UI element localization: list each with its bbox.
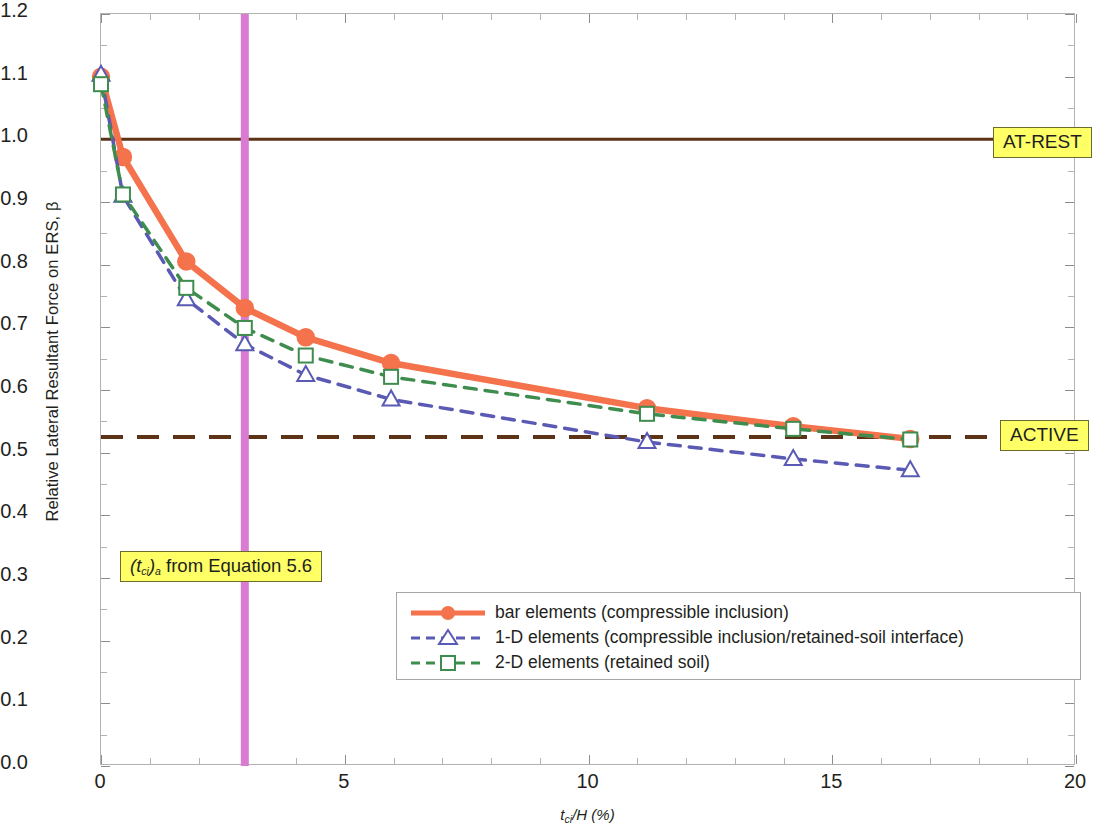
series-2 (94, 77, 917, 446)
legend-label: 2-D elements (retained soil) (495, 652, 710, 673)
data-marker-circle (297, 329, 314, 346)
data-marker-square (94, 77, 108, 91)
y-tick-label: 0.1 (0, 688, 28, 711)
tci-subscript: ci (141, 565, 149, 577)
x-axis-title-rest: /H (%) (572, 806, 615, 823)
tci-rest-text: from Equation 5.6 (161, 555, 312, 576)
y-tick-label: 0.0 (0, 751, 28, 774)
data-marker-square (116, 187, 130, 201)
x-tick-label: 20 (1045, 770, 1105, 793)
y-axis-title: Relative Lateral Resultant Force on ERS,… (43, 52, 62, 672)
data-marker-triangle (785, 450, 802, 465)
data-marker-square (786, 422, 800, 436)
y-tick-label: 0.2 (0, 626, 28, 649)
axis-tick (1076, 755, 1077, 764)
y-tick-label: 0.9 (0, 187, 28, 210)
legend-item: bar elements (compressible inclusion) (409, 600, 1080, 625)
legend-label: bar elements (compressible inclusion) (495, 602, 789, 623)
legend-swatch (409, 602, 487, 624)
y-tick-label: 0.8 (0, 250, 28, 273)
series-line (101, 77, 910, 439)
tci-equation-annotation: (tci)a from Equation 5.6 (120, 551, 322, 582)
y-tick-label: 0.5 (0, 438, 28, 461)
chart-figure: Relative Lateral Resultant Force on ERS,… (0, 0, 1119, 840)
legend-marker-square (441, 656, 455, 670)
axis-tick (101, 766, 110, 767)
axis-tick (1076, 14, 1077, 23)
chart-legend: bar elements (compressible inclusion)1-D… (396, 592, 1081, 680)
y-tick-label: 0.4 (0, 500, 28, 523)
data-marker-square (299, 349, 313, 363)
series-1 (93, 66, 919, 476)
data-marker-square (903, 433, 917, 447)
axis-tick (1065, 766, 1074, 767)
legend-marker-circle (441, 606, 455, 620)
legend-marker-icon (409, 627, 487, 649)
legend-marker-icon (409, 602, 487, 624)
at-rest-annotation: AT-REST (993, 127, 1092, 158)
legend-swatch (409, 652, 487, 674)
data-marker-circle (236, 299, 253, 316)
active-annotation: ACTIVE (1000, 420, 1089, 451)
y-tick-label: 1.0 (0, 124, 28, 147)
legend-item: 2-D elements (retained soil) (409, 650, 1080, 675)
x-axis-title-subscript: ci (565, 813, 573, 825)
y-tick-label: 1.2 (0, 0, 28, 22)
series-line (101, 75, 910, 470)
x-tick-label: 0 (70, 770, 130, 793)
data-marker-square (640, 407, 654, 421)
data-marker-square (179, 281, 193, 295)
y-tick-label: 0.3 (0, 563, 28, 586)
series-0 (93, 68, 919, 447)
x-tick-label: 10 (558, 770, 618, 793)
tci-open-paren: (t (130, 555, 141, 576)
data-marker-square (384, 370, 398, 384)
legend-label: 1-D elements (compressible inclusion/ret… (495, 627, 964, 648)
data-marker-triangle (236, 335, 253, 350)
y-tick-label: 0.7 (0, 312, 28, 335)
x-tick-label: 5 (314, 770, 374, 793)
x-tick-label: 15 (801, 770, 861, 793)
legend-item: 1-D elements (compressible inclusion/ret… (409, 625, 1080, 650)
legend-swatch (409, 627, 487, 649)
data-marker-circle (178, 253, 195, 270)
data-marker-square (238, 321, 252, 335)
x-axis-title: tci/H (%) (100, 806, 1075, 825)
legend-marker-icon (409, 652, 487, 674)
y-tick-label: 0.6 (0, 375, 28, 398)
y-tick-label: 1.1 (0, 62, 28, 85)
